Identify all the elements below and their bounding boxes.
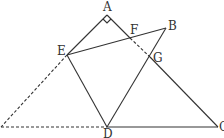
label-E: E	[57, 44, 66, 58]
segment-BD	[107, 28, 166, 127]
segment-AF	[107, 15, 130, 38]
segment-ED	[67, 55, 107, 127]
geometry-diagram: A B C D E F G	[0, 0, 224, 138]
label-A: A	[102, 0, 112, 14]
label-C: C	[219, 120, 224, 134]
segment-GC	[150, 57, 218, 127]
segment-FG-dashed	[130, 38, 150, 57]
label-F: F	[130, 23, 138, 37]
right-angle-marker	[103, 19, 111, 23]
label-G: G	[153, 51, 163, 65]
label-B: B	[168, 19, 177, 33]
label-D: D	[103, 127, 113, 138]
segment-EB	[67, 28, 166, 55]
segment-E-left-dashed	[1, 55, 67, 127]
